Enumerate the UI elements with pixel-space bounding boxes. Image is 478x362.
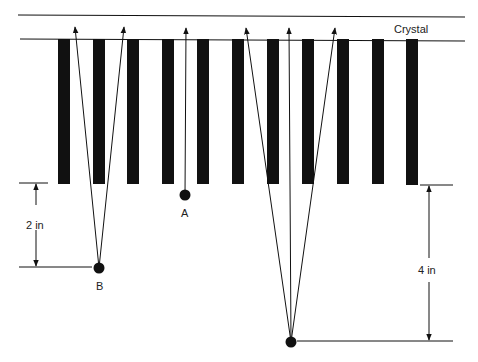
dimension-2in-label: 2 in	[26, 219, 44, 231]
rays-from-c	[246, 28, 335, 342]
dimension-4in-label: 4 in	[418, 264, 436, 276]
point-b-dot	[94, 263, 105, 274]
top-boundary-line	[18, 15, 465, 17]
dimension-4in	[297, 185, 453, 341]
point-a-dot	[180, 190, 191, 201]
crystal-label: Crystal	[394, 23, 428, 35]
point-a-label: A	[181, 207, 189, 219]
point-b-label: B	[96, 280, 103, 292]
point-c-dot	[286, 337, 297, 348]
ray-from-a	[185, 28, 186, 195]
grating-bars	[58, 39, 418, 185]
crystal-diffraction-diagram: Crystal A B 2 in 4 in	[0, 0, 478, 362]
